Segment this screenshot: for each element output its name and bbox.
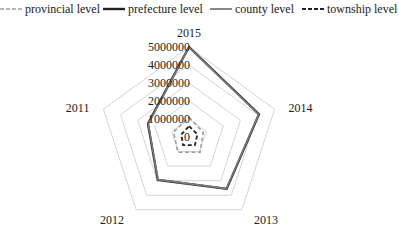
tick-label: 0 xyxy=(184,130,190,144)
legend-swatch-dashed-gray-icon xyxy=(0,5,22,13)
legend-label: township level xyxy=(327,2,397,17)
legend-item-prefecture: prefecture level xyxy=(103,1,203,17)
tick-label: 3000000 xyxy=(148,76,190,90)
category-label-2014: 2014 xyxy=(289,101,313,115)
tick-label: 2000000 xyxy=(148,94,190,108)
legend-item-township: township level xyxy=(302,1,397,17)
tick-label: 4000000 xyxy=(148,58,190,72)
tick-label: 1000000 xyxy=(148,112,190,126)
category-label-2012: 2012 xyxy=(100,213,124,227)
radar-chart: 010000002000000300000040000005000000 201… xyxy=(0,0,399,234)
chart-legend: provincial level prefecture level county… xyxy=(0,1,399,17)
legend-label: county level xyxy=(235,2,294,17)
category-label-2015: 2015 xyxy=(177,26,201,40)
category-label-2013: 2013 xyxy=(254,213,278,227)
legend-label: provincial level xyxy=(25,2,100,17)
legend-label: prefecture level xyxy=(128,2,203,17)
legend-swatch-solid-black-icon xyxy=(103,5,125,13)
legend-item-county: county level xyxy=(210,1,294,17)
category-label-2011: 2011 xyxy=(66,101,90,115)
legend-swatch-dashed-black-icon xyxy=(302,5,324,13)
legend-item-provincial: provincial level xyxy=(0,1,100,17)
tick-label: 5000000 xyxy=(148,40,190,54)
legend-swatch-solid-gray-icon xyxy=(210,5,232,13)
